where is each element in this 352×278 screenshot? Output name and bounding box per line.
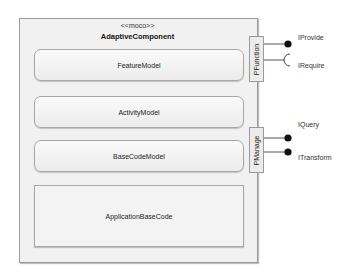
port-label: PManage [253, 135, 260, 165]
port-pmanage[interactable]: PManage [249, 127, 264, 173]
port-label: PFunction [253, 43, 260, 75]
port-pfunction[interactable]: PFunction [249, 36, 264, 82]
irequire-socket-icon [284, 54, 290, 66]
interface-label-iprovide: IProvide [298, 34, 324, 41]
interface-label-itransform: ITransform [298, 154, 332, 161]
interface-connectors [0, 0, 352, 278]
iquery-ball-icon [284, 134, 291, 141]
iprovide-ball-icon [284, 40, 291, 47]
interface-label-iquery: IQuery [298, 121, 319, 128]
itransform-ball-icon [284, 148, 291, 155]
interface-label-irequire: IRequire [298, 62, 324, 69]
